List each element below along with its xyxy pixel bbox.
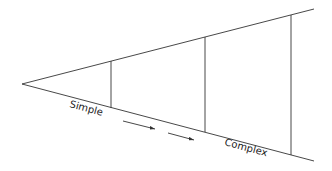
- wedge-bottom-edge: [22, 84, 314, 161]
- progress-arrow-1: [123, 121, 155, 129]
- progress-arrow-2: [168, 133, 194, 140]
- label-complex: Complex: [223, 136, 268, 158]
- diagram-canvas: Simple Complex: [0, 0, 332, 171]
- wedge-top-edge: [22, 9, 314, 84]
- complexity-wedge-diagram: Simple Complex: [0, 0, 332, 171]
